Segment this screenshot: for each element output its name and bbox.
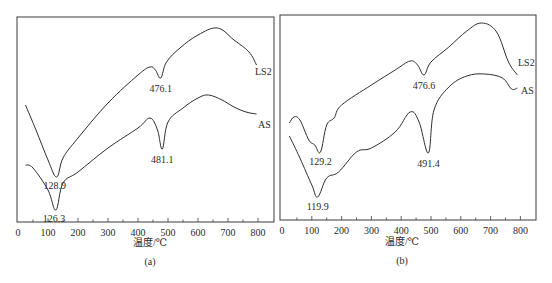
peak-label: 119.9 [307,201,329,212]
dta-figure: 0100200300400500600700800 128.9476.1126.… [0,0,552,283]
curve-ls2 [289,23,517,153]
x-tick-label: 100 [41,227,56,238]
x-tick-label: 600 [191,227,206,238]
x-tick-label: 300 [364,225,379,236]
peak-label: 128.9 [43,180,66,191]
chart-panel-a: 0100200300400500600700800 128.9476.1126.… [16,17,275,268]
x-tick-label: 700 [483,225,498,236]
x-tick-label: 400 [394,225,409,236]
peak-label: 481.1 [151,154,174,165]
panel-label-a: (a) [144,256,155,268]
chart-panel-b: 0100200300400500600700800 129.2476.6119.… [280,15,537,267]
series-label-ls2-b: LS2 [518,57,535,68]
x-tick-label: 700 [221,227,236,238]
x-axis-title-b: 温度/℃ [385,235,419,247]
curve-as [289,74,517,197]
x-tick-label: 600 [453,225,468,236]
peak-annotations-a: 128.9476.1126.3481.1 [43,83,174,224]
peak-label: 491.4 [417,158,440,169]
peak-label: 476.6 [413,80,436,91]
peak-label: 476.1 [150,83,173,94]
curves-b [289,23,517,197]
series-label-as-b: AS [521,85,534,96]
x-tick-label: 800 [513,225,528,236]
x-tick-label: 800 [251,227,266,238]
panel-label-b: (b) [396,255,408,267]
curve-as [26,95,257,210]
x-tick-label: 500 [424,225,439,236]
series-label-ls2-a: LS2 [255,66,272,77]
peak-label: 129.2 [309,156,332,167]
peak-label: 126.3 [43,213,66,224]
x-tick-label: 200 [334,225,349,236]
x-tick-label: 200 [71,227,86,238]
x-tick-label: 0 [16,227,21,238]
x-tick-label: 0 [280,225,285,236]
series-label-as-a: AS [258,119,271,130]
x-axis-title-a: 温度/℃ [133,236,167,248]
x-tick-label: 300 [101,227,116,238]
x-tick-label: 100 [304,225,319,236]
x-ticks-b: 0100200300400500600700800 [280,216,528,236]
curve-ls2 [26,28,257,177]
plot-frame-b [280,15,536,220]
plot-frame-a [17,17,274,222]
peak-annotations-b: 129.2476.6119.9491.4 [307,80,440,212]
